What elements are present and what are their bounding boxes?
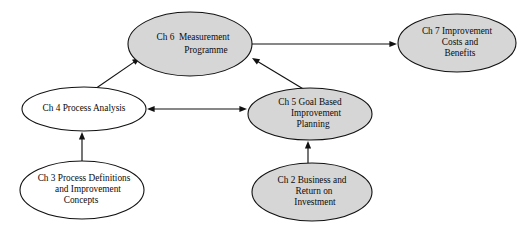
edge-ch2-to-ch5 bbox=[305, 141, 311, 163]
arrowhead bbox=[305, 141, 311, 149]
ch2-business-and-return-on-investment[interactable]: Ch 2 Business andReturn onInvestment bbox=[252, 163, 372, 221]
node-label-line: Costs and bbox=[442, 37, 479, 47]
node-label-line: Improvement bbox=[291, 108, 342, 118]
node-label-line: and Improvement bbox=[55, 184, 121, 194]
nodes-layer: Ch 6 MeasurementProgrammeCh 7 Improvemen… bbox=[20, 12, 516, 221]
arrowhead bbox=[79, 132, 85, 140]
edge-ch4-to-ch5-bidirectional bbox=[147, 106, 247, 112]
ch3-process-definitions-and-improvement-concepts[interactable]: Ch 3 Process Definitionsand ImprovementC… bbox=[20, 161, 144, 219]
edge-line bbox=[92, 60, 137, 91]
ch7-improvement-costs-and-benefits[interactable]: Ch 7 ImprovementCosts andBenefits bbox=[398, 14, 516, 72]
node-label-line: Concepts bbox=[64, 195, 99, 205]
edge-ch4-to-ch6 bbox=[92, 58, 140, 91]
node-label-line: Investment bbox=[294, 197, 336, 207]
arrowhead bbox=[389, 41, 397, 47]
ch5-goal-based-improvement-planning[interactable]: Ch 5 Goal BasedImprovementPlanning bbox=[248, 88, 372, 140]
ch4-process-analysis[interactable]: Ch 4 Process Analysis bbox=[22, 87, 146, 131]
node-label-line: Ch 7 Improvement bbox=[422, 26, 493, 36]
edge-ch5-to-ch6 bbox=[252, 58, 305, 90]
node-label-line: Ch 5 Goal Based bbox=[278, 97, 342, 107]
arrowhead bbox=[147, 106, 155, 112]
node-label-line: Planning bbox=[296, 119, 329, 129]
node-label-line: Return on bbox=[296, 186, 333, 196]
node-label-line: Ch 4 Process Analysis bbox=[43, 103, 126, 113]
edge-ch6-to-ch7 bbox=[252, 41, 397, 47]
node-label-line: Ch 3 Process Definitions bbox=[38, 173, 131, 183]
node-shape bbox=[128, 12, 252, 76]
diagram-canvas: Ch 6 MeasurementProgrammeCh 7 Improvemen… bbox=[0, 0, 531, 229]
edge-ch3-to-ch4 bbox=[79, 132, 85, 161]
node-label-line: Programme bbox=[184, 45, 227, 55]
node-label-line: Ch 2 Business and bbox=[278, 175, 347, 185]
chapter-relationship-diagram: Ch 6 MeasurementProgrammeCh 7 Improvemen… bbox=[0, 0, 531, 229]
arrowhead bbox=[239, 106, 247, 112]
ch6-measurement-programme[interactable]: Ch 6 MeasurementProgramme bbox=[128, 12, 252, 76]
edge-line bbox=[256, 60, 305, 90]
arrowhead bbox=[252, 58, 260, 65]
node-label-line: Ch 6 Measurement bbox=[156, 32, 229, 42]
node-label-line: Benefits bbox=[445, 48, 476, 58]
